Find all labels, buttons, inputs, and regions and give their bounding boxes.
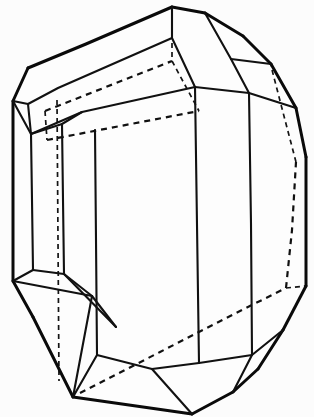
crystal-figure: [0, 0, 314, 417]
crystal-drawing: [0, 0, 314, 417]
